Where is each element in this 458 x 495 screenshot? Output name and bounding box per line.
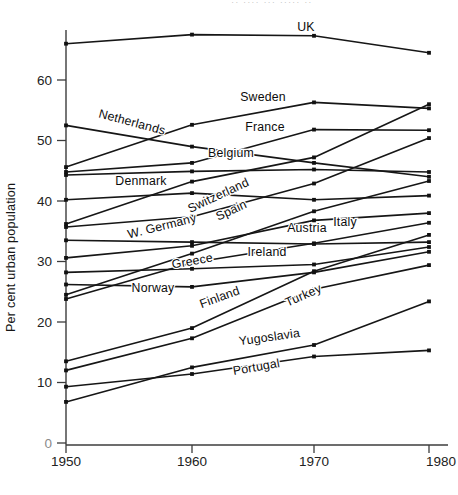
y-tick-label-10: 10	[37, 375, 52, 390]
belgium-label: Belgium	[208, 146, 254, 160]
netherlands-point-1950	[64, 124, 68, 128]
series-uk	[64, 33, 431, 55]
ireland-point-1950	[64, 271, 68, 275]
belgium-point-1960	[190, 170, 194, 174]
yugoslavia-label: Yugoslavia	[238, 326, 301, 348]
finland-point-1970	[312, 269, 316, 273]
netherlands-point-1960	[190, 145, 194, 149]
greece-point-1970	[312, 241, 316, 245]
denmark-label: Denmark	[115, 174, 167, 188]
portugal-point-1960	[190, 372, 194, 376]
greece-point-1950	[64, 297, 68, 301]
x-tick-label-1960: 1960	[177, 454, 207, 469]
switzerland-point-1980	[427, 102, 431, 106]
x-axis-ticks: 1950196019701980	[51, 445, 456, 469]
y-tick-label-0: 0	[44, 436, 52, 451]
ireland-point-1980	[427, 245, 431, 249]
uk-point-1950	[64, 42, 68, 46]
spain-point-1950	[64, 293, 68, 297]
y-tick-label-40: 40	[37, 194, 52, 209]
france-point-1960	[190, 161, 194, 165]
switzerland-point-1960	[190, 180, 194, 184]
x-tick-label-1950: 1950	[51, 454, 81, 469]
denmark-line	[66, 193, 429, 200]
uk-label: UK	[297, 20, 315, 34]
turkey-point-1960	[190, 336, 194, 340]
yugoslavia-point-1960	[190, 366, 194, 370]
uk-line	[66, 35, 429, 53]
x-tick-label-1980: 1980	[426, 454, 456, 469]
sweden-point-1970	[312, 101, 316, 105]
spain-point-1980	[427, 179, 431, 183]
uk-point-1970	[312, 34, 316, 38]
figure-container: ·· ···· ··· ····· ·· Per cent urban popu…	[0, 0, 458, 495]
portugal-point-1950	[64, 385, 68, 389]
belgium-point-1950	[64, 173, 68, 177]
y-axis-title: Per cent urban population	[4, 183, 18, 332]
series-layer	[64, 33, 431, 404]
finland-point-1960	[190, 326, 194, 330]
belgium-point-1970	[312, 168, 316, 172]
series-denmark	[64, 191, 431, 202]
finland-point-1980	[427, 233, 431, 237]
clipped-caption-fragment: ·· ···· ··· ····· ··	[231, 0, 313, 7]
x-tick-label-1970: 1970	[299, 454, 329, 469]
austria-point-1950	[64, 238, 68, 242]
ireland-label: Ireland	[248, 245, 287, 259]
denmark-point-1970	[312, 198, 316, 202]
y-tick-label-30: 30	[37, 254, 52, 269]
belgium-point-1980	[427, 170, 431, 174]
turkey-point-1950	[64, 369, 68, 373]
y-axis-ticks: 0102030405060	[37, 73, 66, 451]
w-germany-point-1950	[64, 225, 68, 229]
austria-label: Austria	[287, 221, 327, 235]
france-label: France	[245, 120, 284, 134]
austria-line	[66, 240, 429, 244]
sweden-label: Sweden	[240, 90, 286, 104]
italy-point-1950	[64, 256, 68, 260]
y-tick-label-60: 60	[37, 73, 52, 88]
austria-point-1980	[427, 240, 431, 244]
turkey-point-1980	[427, 263, 431, 267]
yugoslavia-point-1970	[312, 343, 316, 347]
switzerland-point-1970	[312, 156, 316, 160]
turkey-label: Turkey	[283, 281, 324, 310]
w-germany-label: W. Germany	[126, 211, 198, 242]
uk-point-1980	[427, 51, 431, 55]
portugal-point-1980	[427, 349, 431, 353]
austria-point-1960	[190, 240, 194, 244]
norway-point-1960	[190, 285, 194, 289]
netherlands-point-1970	[312, 161, 316, 165]
finland-label: Finland	[198, 284, 242, 311]
sweden-point-1960	[190, 123, 194, 127]
yugoslavia-point-1950	[64, 400, 68, 404]
netherlands-point-1980	[427, 175, 431, 179]
italy-label: Italy	[333, 215, 357, 229]
france-point-1980	[427, 128, 431, 132]
y-tick-label-20: 20	[37, 315, 52, 330]
italy-point-1980	[427, 211, 431, 215]
y-tick-label-50: 50	[37, 133, 52, 148]
denmark-point-1950	[64, 198, 68, 202]
sweden-point-1980	[427, 107, 431, 111]
uk-point-1960	[190, 33, 194, 37]
w-germany-point-1970	[312, 182, 316, 186]
denmark-point-1960	[190, 191, 194, 195]
italy-point-1960	[190, 244, 194, 248]
denmark-point-1980	[427, 194, 431, 198]
spain-point-1970	[312, 209, 316, 213]
finland-point-1950	[64, 359, 68, 363]
w-germany-point-1980	[427, 136, 431, 140]
sweden-point-1950	[64, 165, 68, 169]
portugal-point-1970	[312, 355, 316, 359]
norway-point-1950	[64, 283, 68, 287]
norway-label: Norway	[132, 281, 176, 295]
france-point-1970	[312, 128, 316, 132]
yugoslavia-point-1980	[427, 300, 431, 304]
greece-point-1980	[427, 221, 431, 225]
urban-population-line-chart: ·· ···· ··· ····· ·· Per cent urban popu…	[0, 0, 458, 495]
ireland-point-1970	[312, 263, 316, 267]
series-yugoslavia	[64, 300, 431, 404]
norway-point-1980	[427, 250, 431, 254]
